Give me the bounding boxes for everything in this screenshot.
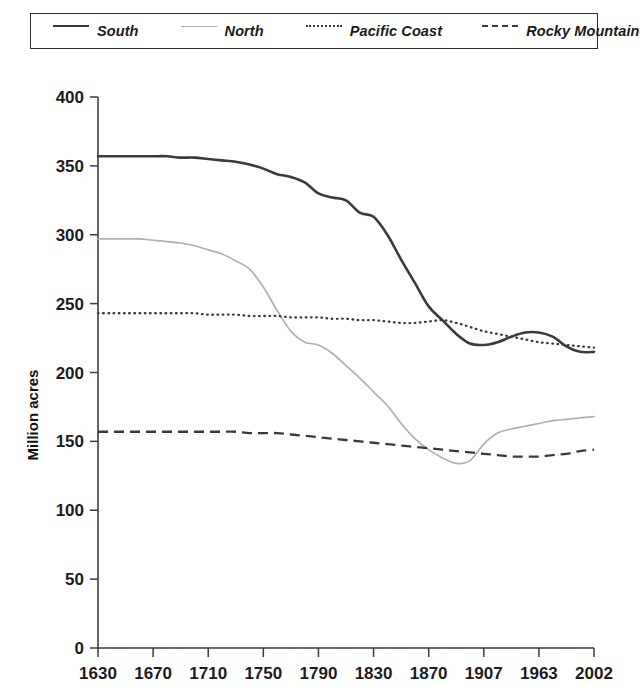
y-axis: 050100150200250300350400 xyxy=(56,88,98,658)
series-line-north xyxy=(98,239,594,464)
x-axis: 1630167017101750179018301870190719632002 xyxy=(79,648,613,683)
x-axis-tick-label: 1870 xyxy=(410,664,448,683)
x-axis-tick-label: 1710 xyxy=(189,664,227,683)
y-axis-tick-labels: 050100150200250300350400 xyxy=(56,88,84,658)
x-axis-tick-label: 1750 xyxy=(244,664,282,683)
y-axis-tick-label: 150 xyxy=(56,432,84,451)
y-axis-tick-label: 250 xyxy=(56,295,84,314)
series-line-south xyxy=(98,156,594,352)
x-axis-tick-label: 1907 xyxy=(465,664,503,683)
x-axis-tick-labels: 1630167017101750179018301870190719632002 xyxy=(79,664,613,683)
x-axis-tick-label: 1830 xyxy=(355,664,393,683)
y-axis-tick-label: 50 xyxy=(65,570,84,589)
y-axis-tick-label: 300 xyxy=(56,226,84,245)
y-axis-tick-label: 350 xyxy=(56,157,84,176)
y-axis-title: Million acres xyxy=(24,370,41,461)
y-axis-tick-label: 400 xyxy=(56,88,84,107)
series-line-rocky-mountain xyxy=(98,432,594,457)
x-axis-tick-label: 1670 xyxy=(134,664,172,683)
x-axis-tick-label: 1630 xyxy=(79,664,117,683)
x-axis-tick-label: 1790 xyxy=(300,664,338,683)
y-axis-tick-label: 100 xyxy=(56,501,84,520)
x-axis-tick-label: 1963 xyxy=(520,664,558,683)
x-axis-tick-label: 2002 xyxy=(575,664,613,683)
x-axis-ticks xyxy=(98,648,594,657)
series-line-pacific-coast xyxy=(98,313,594,348)
y-axis-tick-label: 0 xyxy=(75,639,84,658)
y-axis-tick-label: 200 xyxy=(56,364,84,383)
y-axis-ticks xyxy=(90,97,98,648)
chart-series xyxy=(98,156,594,464)
